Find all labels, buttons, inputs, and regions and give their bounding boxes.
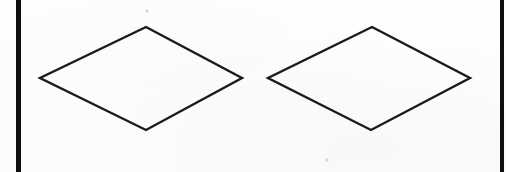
figure-drawing-layer [0, 0, 506, 172]
figure-canvas [0, 0, 506, 172]
left-vertical-rule [16, 0, 21, 172]
scan-speck-top-icon [145, 9, 148, 12]
scan-speck-bottom-icon [326, 159, 329, 162]
right-vertical-rule [500, 0, 504, 172]
left-rhombus [40, 27, 242, 130]
right-rhombus [268, 27, 470, 130]
